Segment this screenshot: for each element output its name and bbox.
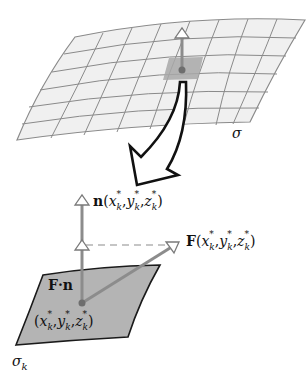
sample-point	[79, 300, 86, 307]
normal-vector-label: n(x*k,y*k,z*k)	[93, 194, 163, 208]
surface-sigma	[17, 19, 305, 140]
surface-label-sigma: σ	[232, 126, 242, 140]
field-vector-label: F(x*k,y*k,z*k)	[186, 234, 255, 248]
patch-sigma-k	[16, 265, 160, 345]
dot-product-label: F·n	[48, 278, 73, 292]
point-label: (x*k,y*k,z*k)	[34, 314, 93, 328]
patch-label-sigma-k: σk	[12, 354, 28, 368]
